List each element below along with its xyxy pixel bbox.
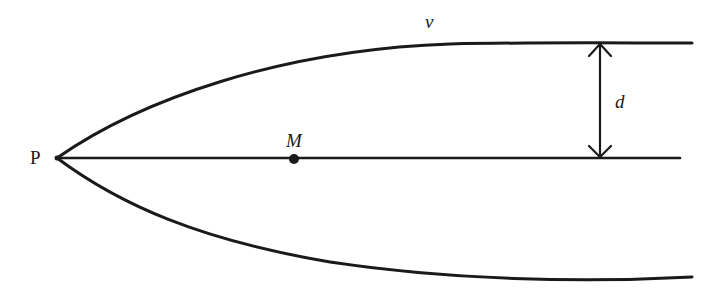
- label-distance-d: d: [615, 92, 625, 111]
- diagram-canvas: [0, 0, 727, 295]
- point-m: [289, 154, 299, 164]
- label-vertex-p: P: [30, 148, 41, 167]
- upper-boundary-curve: [57, 43, 692, 158]
- vertex-p-point: [55, 156, 60, 161]
- lower-boundary-curve: [57, 158, 692, 280]
- label-point-m: M: [286, 131, 302, 150]
- label-upper-curve-v: v: [425, 12, 433, 31]
- distance-d-arrow: [589, 44, 611, 157]
